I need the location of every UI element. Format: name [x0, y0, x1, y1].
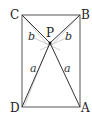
label-d: D: [10, 101, 20, 114]
label-a: A: [80, 101, 90, 114]
label-dp-a: a: [30, 62, 37, 75]
label-cp-b: b: [28, 30, 35, 43]
point-p-dot: [49, 42, 52, 45]
label-p: P: [46, 26, 54, 40]
label-ap-a: a: [64, 62, 71, 75]
label-b: B: [81, 8, 90, 22]
segment-ap: [50, 43, 80, 107]
geometry-diagram: C B D A P b b a a: [0, 0, 92, 114]
label-c: C: [10, 8, 19, 22]
label-bp-b: b: [65, 30, 72, 43]
segment-dp: [22, 43, 50, 107]
